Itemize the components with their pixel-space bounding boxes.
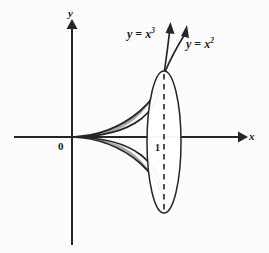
curve-cubic-arrowhead	[166, 22, 175, 34]
y-axis-label: y	[68, 8, 73, 19]
x-axis	[14, 132, 248, 143]
solid-of-revolution-ellipse	[147, 71, 181, 213]
curve-label-cubic: y = x3	[127, 28, 155, 40]
origin-label: 0	[58, 141, 64, 152]
x-axis-label: x	[249, 131, 255, 142]
y-axis-arrowhead	[67, 19, 78, 29]
x-tick-label-one: 1	[155, 143, 160, 153]
figure-canvas: y = x3 y = x2 y x 0 1	[0, 0, 269, 253]
curve-label-square: y = x2	[186, 38, 214, 50]
x-axis-arrowhead	[238, 132, 248, 143]
y-axis	[67, 19, 78, 245]
